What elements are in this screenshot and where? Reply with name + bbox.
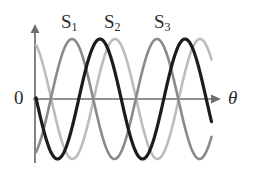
- series-label-s1-base: S: [61, 11, 72, 32]
- series-label-s1-subscript: 1: [72, 20, 78, 34]
- series-label-s2-base: S: [104, 11, 115, 32]
- x-axis-arrowhead: [211, 95, 221, 104]
- origin-label: 0: [14, 88, 24, 107]
- y-axis-arrowhead: [31, 24, 40, 33]
- series-label-s2-subscript: 2: [115, 20, 121, 34]
- series-label-s3: S3: [154, 12, 171, 31]
- plot-canvas: [0, 0, 265, 180]
- series-label-s2: S2: [104, 12, 121, 31]
- sine-wave-figure: S1 S2 S3 0 θ: [0, 0, 265, 180]
- series-label-s1: S1: [61, 12, 78, 31]
- series-label-s3-base: S: [154, 11, 165, 32]
- series-label-s3-subscript: 3: [165, 20, 171, 34]
- x-axis-label-theta: θ: [228, 88, 237, 107]
